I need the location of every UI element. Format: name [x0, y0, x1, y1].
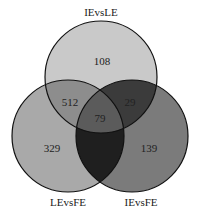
count-all: 79: [95, 112, 106, 124]
set-label-ievsfe: IEvsFE: [125, 196, 158, 208]
venn-diagram: [0, 0, 200, 216]
count-ievsle-levsfe: 512: [62, 96, 79, 108]
count-ievsle-ievsfe: 29: [125, 96, 136, 108]
count-ievsfe-only: 139: [141, 142, 158, 154]
count-ievsle-only: 108: [94, 55, 111, 67]
count-levsfe-only: 329: [44, 142, 61, 154]
set-label-levsfe: LEvsFE: [50, 196, 86, 208]
set-label-ievsle: IEvsLE: [84, 6, 118, 18]
